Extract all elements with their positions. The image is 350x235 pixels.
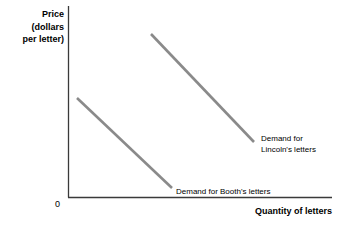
y-axis-title-line-2: (dollars bbox=[31, 22, 64, 32]
origin-label: 0 bbox=[55, 199, 60, 210]
y-axis-title-line-1: Price bbox=[42, 9, 64, 19]
lincoln-curve-label: Demand forLincoln's letters bbox=[261, 134, 316, 155]
demand-curves-chart: Price(dollarsper letter) 0 Quantity of l… bbox=[0, 0, 350, 235]
lincoln-curve-label-line-2: Lincoln's letters bbox=[261, 145, 316, 154]
y-axis-title-line-3: per letter) bbox=[22, 34, 64, 44]
x-axis-title: Quantity of letters bbox=[180, 206, 332, 217]
lincoln-curve-label-line-1: Demand for bbox=[261, 134, 303, 143]
booth-curve-label: Demand for Booth's letters bbox=[176, 186, 270, 197]
lincoln-demand-curve bbox=[151, 34, 254, 142]
booth-demand-curve bbox=[77, 98, 172, 188]
y-axis-title: Price(dollarsper letter) bbox=[0, 8, 64, 46]
